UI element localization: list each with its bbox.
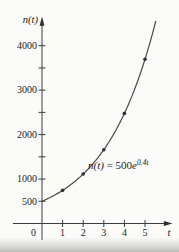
y-tick-label: 1000 — [17, 173, 37, 184]
exponential-curve — [42, 21, 156, 201]
exponential-growth-figure: 5001000200030004000 12345 n(t) t 0 n(t) … — [0, 0, 179, 252]
equation-annotation: n(t) = 500e0.4t — [88, 158, 149, 172]
x-tick-label: 1 — [60, 227, 65, 238]
data-point-t4 — [123, 112, 127, 116]
y-tick-label: 3000 — [17, 84, 37, 95]
y-axis-tick-labels: 5001000200030004000 — [17, 40, 37, 207]
x-axis-arrow-icon — [164, 221, 173, 226]
y-axis-arrow-icon — [40, 17, 45, 26]
data-point-t3 — [102, 148, 106, 152]
x-tick-label: 5 — [143, 227, 148, 238]
data-point-t5 — [143, 57, 147, 61]
x-axis-title: t — [168, 227, 172, 238]
y-tick-label: 500 — [22, 196, 37, 207]
x-tick-label: 3 — [101, 227, 106, 238]
x-tick-label: 2 — [81, 227, 86, 238]
x-tick-label: 4 — [122, 227, 127, 238]
y-tick-label: 4000 — [17, 40, 37, 51]
data-point-t1 — [61, 189, 65, 193]
growth-chart: 5001000200030004000 12345 n(t) t 0 n(t) … — [0, 0, 179, 252]
data-points — [61, 57, 147, 192]
y-tick-label: 2000 — [17, 129, 37, 140]
x-axis-tick-labels: 12345 — [60, 227, 147, 238]
origin-label: 0 — [31, 227, 36, 238]
curve-path — [42, 21, 156, 201]
y-axis-title: n(t) — [23, 14, 39, 26]
data-point-t2 — [81, 172, 85, 176]
